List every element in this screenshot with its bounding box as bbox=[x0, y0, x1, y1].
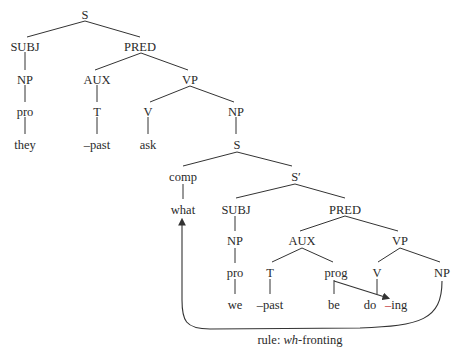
word-do: do bbox=[364, 298, 377, 312]
word-past: –past bbox=[83, 138, 111, 152]
node-comp: comp bbox=[169, 170, 197, 184]
node-v: V bbox=[143, 105, 152, 119]
node-subj-embedded: SUBJ bbox=[221, 203, 250, 217]
node-t: T bbox=[93, 105, 101, 119]
word-what: what bbox=[171, 203, 196, 217]
node-np-object: NP bbox=[228, 105, 244, 119]
word-past-embedded: –past bbox=[256, 298, 284, 312]
word-be: be bbox=[328, 298, 340, 312]
node-vp: VP bbox=[182, 73, 198, 87]
node-s-bar: S′ bbox=[291, 170, 301, 184]
node-subj: SUBJ bbox=[10, 40, 39, 54]
node-np-embedded: NP bbox=[227, 234, 243, 248]
syntax-tree-diagram: S SUBJ PRED NP AUX VP pro T V NP they –p… bbox=[0, 0, 462, 353]
node-np: NP bbox=[17, 73, 33, 87]
node-v-embedded: V bbox=[372, 266, 381, 280]
node-pred: PRED bbox=[124, 40, 156, 54]
node-pro: pro bbox=[17, 105, 34, 119]
node-s-embedded: S bbox=[234, 138, 241, 152]
word-we: we bbox=[228, 298, 243, 312]
word-ask: ask bbox=[140, 138, 157, 152]
affix-hop-arrow bbox=[334, 281, 388, 298]
node-aux-embedded: AUX bbox=[288, 234, 315, 248]
node-s-root: S bbox=[82, 8, 89, 22]
node-pred-embedded: PRED bbox=[329, 203, 361, 217]
node-aux: AUX bbox=[83, 73, 110, 87]
node-pro-embedded: pro bbox=[227, 266, 244, 280]
tree-edges bbox=[25, 21, 440, 294]
node-np-gap: NP bbox=[434, 266, 450, 280]
node-t-embedded: T bbox=[266, 266, 274, 280]
word-ing: –ing bbox=[384, 298, 408, 312]
tree-labels: S SUBJ PRED NP AUX VP pro T V NP they –p… bbox=[10, 8, 450, 347]
node-prog: prog bbox=[325, 266, 349, 280]
rule-caption: rule: wh-fronting bbox=[257, 333, 343, 347]
word-they: they bbox=[14, 138, 36, 152]
node-vp-embedded: VP bbox=[392, 234, 408, 248]
